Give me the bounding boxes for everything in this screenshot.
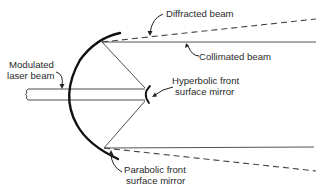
collimated-beam-bottom	[104, 147, 314, 148]
label-modulated-laser-line1: Modulated	[9, 59, 54, 70]
leader-collimated	[185, 43, 199, 56]
leader-laser	[56, 72, 65, 89]
beam-break-mark	[26, 89, 29, 100]
label-parabolic-line2: surface mirror	[126, 175, 186, 186]
label-diffracted-beam: Diffracted beam	[166, 8, 234, 19]
arrowhead-icon	[109, 150, 114, 155]
label-hyperbolic-line2: surface mirror	[175, 86, 235, 97]
leader-line	[56, 72, 62, 86]
leader-line	[150, 14, 163, 33]
leader-hyperbolic	[152, 87, 173, 97]
leader-line	[188, 46, 199, 56]
label-modulated-laser-line2: laser beam	[7, 70, 54, 81]
diffracted-beam-top	[102, 19, 316, 42]
label-parabolic-line1: Parabolic front	[124, 164, 186, 175]
leader-line	[155, 87, 173, 95]
leader-parabolic	[109, 150, 123, 172]
arrowhead-icon	[148, 31, 153, 36]
label-collimated-beam: Collimated beam	[199, 51, 271, 62]
reflected-ray-top	[102, 42, 145, 88]
arrowhead-icon	[152, 93, 157, 98]
label-hyperbolic-line1: Hyperbolic front	[172, 75, 240, 86]
reflected-ray-bottom	[104, 101, 145, 148]
hyperbolic-mirror	[146, 86, 150, 103]
modulated-laser-beam	[26, 89, 146, 100]
parabolic-mirror	[69, 33, 120, 159]
arrowhead-icon	[60, 84, 65, 89]
optical-diagram: Diffracted beam Collimated beam Modulate…	[0, 0, 326, 191]
leader-diffracted	[148, 14, 164, 36]
